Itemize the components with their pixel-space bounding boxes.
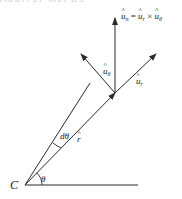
u-r-label-base: u: [136, 77, 141, 86]
u-theta-label-base: u: [103, 67, 108, 76]
u-r-symbol: u: [138, 12, 143, 21]
u-theta-label: uθ: [103, 67, 110, 77]
r-symbol: r: [77, 135, 81, 144]
u-theta-symbol: u: [155, 12, 160, 21]
cross-product-equation: un = ur × uθ: [121, 12, 162, 22]
u-theta-subscript: θ: [159, 16, 162, 22]
diagram-lines: [0, 0, 182, 199]
times-sign: ×: [147, 11, 152, 21]
dtheta-arc: [53, 143, 61, 148]
u-n-symbol: u: [121, 12, 126, 21]
position-vector-line: [25, 93, 115, 185]
dtheta-label: dθ: [60, 132, 69, 141]
u-r-label: ur: [136, 77, 143, 87]
origin-label: C: [10, 179, 18, 191]
equals-sign: =: [131, 11, 136, 21]
u-r-vector: [115, 54, 156, 93]
theta-label: θ: [41, 175, 45, 184]
position-vector-label: r: [77, 135, 81, 144]
polar-unit-vectors-diagram: ORBITAL MECHANICS un = ur × uθ uθ: [0, 0, 182, 199]
